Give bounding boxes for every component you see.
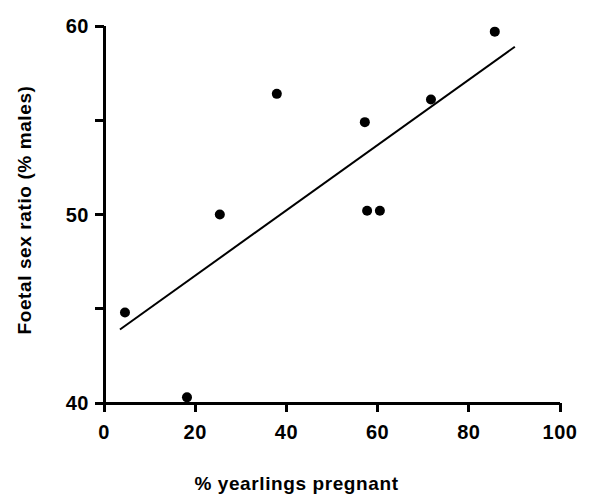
y-axis-title-text: Foetal sex ratio (% males) [14, 86, 36, 335]
x-axis-tick-label: 20 [184, 422, 207, 442]
data-point [182, 392, 192, 402]
y-axis-tick-label: 40 [40, 393, 89, 413]
data-point [272, 89, 282, 99]
x-axis-tick-label: 60 [366, 422, 389, 442]
data-points [120, 27, 500, 403]
data-point [490, 27, 500, 37]
x-axis-tick-label: 100 [543, 422, 578, 442]
data-point [362, 206, 372, 216]
axis-ticks [95, 26, 560, 412]
x-axis-title: % yearlings pregnant [0, 473, 593, 495]
data-point [375, 206, 385, 216]
data-point [215, 210, 225, 220]
regression-line [120, 47, 515, 330]
x-axis-tick-label: 80 [457, 422, 480, 442]
y-axis-tick-label: 60 [40, 16, 89, 36]
data-point [120, 308, 130, 318]
chart-figure: 405060020406080100 Foetal sex ratio (% m… [0, 0, 593, 503]
data-point [360, 117, 370, 127]
x-axis-tick-label: 0 [98, 422, 110, 442]
trend-line [120, 47, 515, 330]
axis-lines [104, 26, 560, 403]
x-axis-title-text: % yearlings pregnant [194, 473, 398, 494]
x-axis-tick-label: 40 [275, 422, 298, 442]
y-axis-tick-label: 50 [40, 205, 89, 225]
data-point [426, 95, 436, 105]
y-axis-title: Foetal sex ratio (% males) [8, 0, 42, 420]
